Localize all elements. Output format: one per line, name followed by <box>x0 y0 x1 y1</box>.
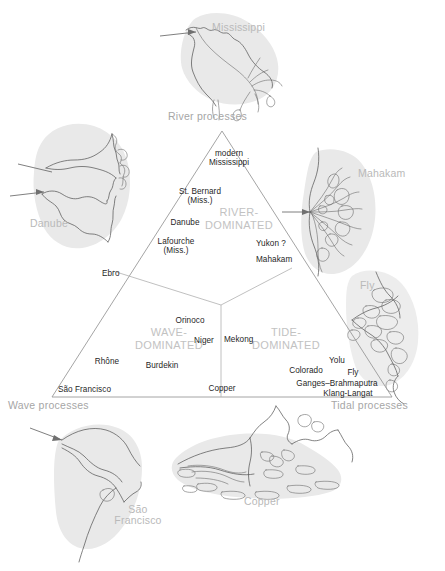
plotted-delta-niger: Niger <box>186 337 222 346</box>
corner-label-tidal: Tidal processes <box>331 400 408 411</box>
corner-label-river: River processes <box>168 111 247 122</box>
delta-classification-figure: River processes Wave processes Tidal pro… <box>0 0 445 571</box>
delta-map-label-sao-francisco: São Francisco <box>108 504 168 527</box>
field-label-tide-line2: DOMINATED <box>243 339 329 352</box>
plotted-delta-modern-mississippi-line2: Mississippi <box>198 159 260 168</box>
plotted-delta-orinoco: Orinoco <box>166 317 214 326</box>
plotted-delta-yolu: Yolu <box>322 357 352 366</box>
plotted-delta-lafourche: Lafourche (Miss.) <box>148 238 204 256</box>
plotted-delta-klang-langat: Klang-Langat <box>307 390 389 399</box>
plotted-delta-fly-point: Fly <box>341 369 365 378</box>
field-label-tide-line1: TIDE- <box>243 326 329 339</box>
plotted-delta-mahakam-point: Mahakam <box>256 256 292 265</box>
plotted-delta-yukon: Yukon ? <box>256 240 286 249</box>
field-label-tide: TIDE- DOMINATED <box>243 326 329 351</box>
delta-map-label-danube: Danube <box>30 218 68 229</box>
field-label-river-line2: DOMINATED <box>199 219 279 232</box>
plotted-delta-copper-point: Copper <box>199 385 245 394</box>
ternary-triangle <box>0 0 445 571</box>
plotted-delta-colorado: Colorado <box>281 367 331 376</box>
plotted-delta-modern-mississippi: modern Mississippi <box>198 150 260 168</box>
plotted-delta-ganges-brahmaputra: Ganges–Brahmaputra <box>285 380 389 389</box>
delta-map-label-mississippi: Mississippi <box>212 22 265 33</box>
corner-label-wave: Wave processes <box>8 400 89 411</box>
divider-right <box>221 268 292 305</box>
delta-map-label-sao-francisco-line2: Francisco <box>108 515 168 526</box>
field-label-river: RIVER- DOMINATED <box>199 206 279 231</box>
delta-map-label-mahakam: Mahakam <box>358 168 406 179</box>
plotted-delta-burdekin: Burdekin <box>136 362 188 371</box>
plotted-delta-mekong: Mekong <box>224 336 253 345</box>
plotted-delta-ebro: Ebro <box>102 270 120 279</box>
plotted-delta-sao-francisco-point: São Francisco <box>58 386 111 395</box>
field-label-river-line1: RIVER- <box>199 206 279 219</box>
plotted-delta-st-bernard: St. Bernard (Miss.) <box>168 188 232 206</box>
delta-map-label-fly: Fly <box>360 280 375 291</box>
plotted-delta-lafourche-line2: (Miss.) <box>148 247 204 256</box>
delta-map-label-copper: Copper <box>244 496 280 507</box>
plotted-delta-rhone: Rhône <box>88 358 126 367</box>
plotted-delta-danube: Danube <box>163 219 207 228</box>
divider-left <box>113 271 221 305</box>
plotted-delta-st-bernard-line2: (Miss.) <box>168 197 232 206</box>
